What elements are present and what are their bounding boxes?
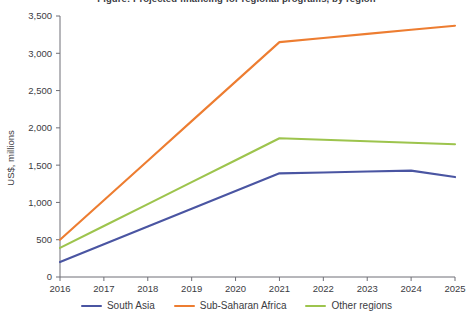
y-axis-tick-label: 500 bbox=[36, 234, 52, 245]
x-axis-tick-label: 2024 bbox=[401, 283, 422, 294]
x-axis-tick-label: 2023 bbox=[357, 283, 378, 294]
data-series-group bbox=[60, 26, 455, 262]
x-axis-tick-label: 2017 bbox=[93, 283, 114, 294]
y-axis-tick-label: 1,000 bbox=[28, 197, 52, 208]
y-axis-tick-label: 2,000 bbox=[28, 122, 52, 133]
line-chart: 05001,0001,5002,0002,5003,0003,500 20162… bbox=[0, 8, 473, 300]
legend-swatch-icon bbox=[174, 305, 195, 307]
y-axis-tick-label: 3,500 bbox=[28, 10, 52, 21]
y-axis-tick-label: 1,500 bbox=[28, 160, 52, 171]
x-axis-tick-label: 2022 bbox=[313, 283, 334, 294]
legend-item[interactable]: Sub-Saharan Africa bbox=[174, 300, 287, 312]
x-axis-tick-label: 2021 bbox=[269, 283, 290, 294]
legend-swatch-icon bbox=[81, 305, 102, 307]
y-axis-tick-label: 2,500 bbox=[28, 85, 52, 96]
y-axis-tick-label: 3,000 bbox=[28, 48, 52, 59]
y-axis-tick-label: 0 bbox=[47, 271, 52, 282]
chart-legend: South AsiaSub-Saharan AfricaOther region… bbox=[0, 300, 473, 326]
chart-figure: Figure: Projected financing for regional… bbox=[0, 0, 473, 326]
series-line bbox=[60, 138, 455, 248]
legend-item[interactable]: Other regions bbox=[305, 300, 392, 312]
legend-item-label: Other regions bbox=[331, 300, 392, 312]
plot-area: 05001,0001,5002,0002,5003,0003,500 20162… bbox=[0, 8, 473, 300]
x-axis-tick-label: 2019 bbox=[181, 283, 202, 294]
series-line bbox=[60, 171, 455, 262]
y-axis: 05001,0001,5002,0002,5003,0003,500 bbox=[28, 10, 60, 282]
x-axis-tick-label: 2025 bbox=[444, 283, 465, 294]
x-axis-tick-label: 2018 bbox=[137, 283, 158, 294]
x-axis-tick-label: 2016 bbox=[49, 283, 70, 294]
figure-title-clipped: Figure: Projected financing for regional… bbox=[0, 0, 473, 5]
legend-item-label: Sub-Saharan Africa bbox=[200, 300, 287, 312]
y-axis-title: US$, millions bbox=[5, 130, 16, 186]
legend-item-label: South Asia bbox=[107, 300, 155, 312]
legend-swatch-icon bbox=[305, 305, 326, 307]
x-axis-tick-label: 2020 bbox=[225, 283, 246, 294]
legend-item[interactable]: South Asia bbox=[81, 300, 155, 312]
x-axis: 2016201720182019202020212022202320242025 bbox=[49, 277, 465, 294]
series-line bbox=[60, 26, 455, 240]
